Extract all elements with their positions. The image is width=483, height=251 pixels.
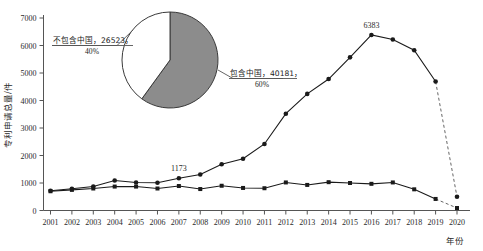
- data-point: [49, 189, 53, 193]
- data-point: [112, 178, 117, 183]
- series-line-dashed: [436, 199, 457, 208]
- data-point: [391, 180, 395, 184]
- data-point: [113, 185, 117, 189]
- x-tick-label: 2017: [385, 218, 401, 227]
- x-tick-label: 2002: [64, 218, 80, 227]
- data-point: [455, 194, 460, 199]
- x-tick-label: 2013: [299, 218, 315, 227]
- x-tick-label: 2014: [321, 218, 337, 227]
- patent-application-line-chart: 01000200030004000500060007000 2001200220…: [0, 0, 483, 251]
- pie-label-left-line2: 40%: [85, 47, 100, 56]
- data-point: [433, 79, 438, 84]
- x-tick-label: 2001: [43, 218, 59, 227]
- y-tick-label: 7000: [21, 14, 37, 23]
- data-point: [219, 162, 224, 167]
- y-tick-label: 6000: [21, 42, 37, 51]
- data-point: [327, 180, 331, 184]
- data-point: [262, 142, 267, 147]
- point-value-label: 1173: [171, 164, 187, 173]
- x-tick-label: 2011: [257, 218, 273, 227]
- data-point: [369, 182, 373, 186]
- data-point: [220, 184, 224, 188]
- data-point: [455, 206, 459, 210]
- series-line-solid: [51, 35, 436, 191]
- data-point: [348, 181, 352, 185]
- x-tick-label: 2003: [85, 218, 101, 227]
- x-tick-label: 2016: [363, 218, 379, 227]
- y-tick-label: 5000: [21, 69, 37, 78]
- data-point: [348, 55, 353, 60]
- y-axis-title: 专利申请总量/件: [3, 82, 13, 148]
- data-point: [284, 111, 289, 116]
- y-tick-label: 0: [33, 207, 37, 216]
- y-axis-ticks: 01000200030004000500060007000: [21, 14, 44, 216]
- x-tick-label: 2009: [214, 218, 230, 227]
- data-point: [326, 77, 331, 82]
- x-tick-label: 2018: [406, 218, 422, 227]
- x-tick-label: 2010: [235, 218, 251, 227]
- point-value-label: 6383: [363, 21, 379, 30]
- data-point: [177, 176, 182, 181]
- x-tick-label: 2007: [171, 218, 187, 227]
- data-point: [412, 187, 416, 191]
- inset-pie-chart: [122, 12, 218, 108]
- data-point: [305, 183, 309, 187]
- data-point: [412, 48, 417, 53]
- data-point: [134, 180, 139, 185]
- x-axis-ticks: 2001200220032004200520062007200820092010…: [43, 211, 466, 227]
- y-tick-label: 1000: [21, 179, 37, 188]
- data-point: [434, 197, 438, 201]
- data-point: [241, 157, 246, 162]
- data-point: [241, 186, 245, 190]
- data-point: [155, 187, 159, 191]
- series-square: [49, 180, 460, 210]
- data-point: [91, 187, 95, 191]
- x-tick-label: 2008: [192, 218, 208, 227]
- x-tick-label: 2012: [278, 218, 294, 227]
- data-point: [198, 172, 203, 177]
- series-line-dashed: [436, 82, 457, 197]
- data-series-group: [48, 33, 459, 210]
- y-tick-label: 3000: [21, 124, 37, 133]
- data-point: [155, 180, 160, 185]
- data-point: [134, 185, 138, 189]
- data-point: [305, 92, 310, 97]
- data-point: [70, 188, 74, 192]
- pie-label-left-line1: 不包含中国，26523，: [53, 35, 133, 45]
- x-tick-label: 2006: [149, 218, 165, 227]
- y-tick-label: 2000: [21, 152, 37, 161]
- x-tick-label: 2004: [107, 218, 123, 227]
- pie-label-right-line1: 包含中国，40181，: [230, 68, 302, 78]
- series-circle: [48, 33, 459, 199]
- series-line-solid: [51, 182, 436, 199]
- data-point: [391, 37, 396, 42]
- data-point: [198, 187, 202, 191]
- x-tick-label: 2019: [428, 218, 444, 227]
- pie-label-right-line2: 60%: [255, 80, 270, 89]
- chart-figure: 01000200030004000500060007000 2001200220…: [0, 0, 483, 251]
- data-point: [284, 180, 288, 184]
- x-tick-label: 2015: [342, 218, 358, 227]
- x-tick-label: 2020: [449, 218, 465, 227]
- data-point: [177, 184, 181, 188]
- y-tick-label: 4000: [21, 97, 37, 106]
- x-axis-title: 年份: [446, 236, 464, 246]
- data-point: [369, 33, 374, 38]
- data-point: [262, 186, 266, 190]
- x-tick-label: 2005: [128, 218, 144, 227]
